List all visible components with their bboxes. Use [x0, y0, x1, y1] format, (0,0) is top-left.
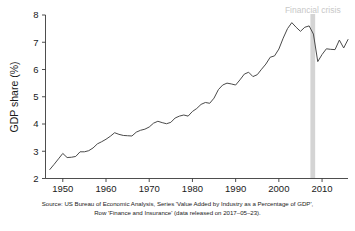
y-tick-label-3: 3: [33, 146, 38, 157]
x-tick-marks: [63, 179, 322, 183]
annotation-labels: Financial crisis: [285, 5, 341, 15]
source-line-1: Source: US Bureau of Economic Analysis, …: [0, 200, 355, 209]
chart-figure: Financial crisis 2345678 195019601970198…: [0, 0, 355, 231]
y-tick-label-5: 5: [33, 91, 38, 102]
x-tick-label-1980: 1980: [182, 183, 203, 194]
x-tick-label-2000: 2000: [268, 183, 289, 194]
y-tick-label-8: 8: [33, 9, 38, 20]
y-tick-label-6: 6: [33, 64, 38, 75]
chart-source-caption: Source: US Bureau of Economic Analysis, …: [0, 200, 355, 217]
y-tick-label-2: 2: [33, 173, 38, 184]
y-tick-label-7: 7: [33, 37, 38, 48]
y-axis-label: GDP share (%): [8, 62, 20, 133]
x-tick-label-1970: 1970: [139, 183, 160, 194]
y-tick-marks: [42, 15, 46, 179]
financial-crisis-label: Financial crisis: [285, 5, 341, 15]
y-tick-labels: 2345678: [33, 9, 38, 184]
x-tick-labels: 1950196019701980199020002010: [52, 183, 332, 194]
x-tick-label-1950: 1950: [52, 183, 73, 194]
source-line-2: Row 'Finance and Insurance' (data releas…: [0, 209, 355, 218]
x-tick-label-1960: 1960: [95, 183, 116, 194]
x-tick-label-1990: 1990: [225, 183, 246, 194]
y-tick-label-4: 4: [33, 118, 38, 129]
gdp-share-series-line: [50, 23, 348, 170]
axes-group: [42, 15, 348, 182]
x-tick-label-2010: 2010: [312, 183, 333, 194]
gdp-share-line-chart: Financial crisis 2345678 195019601970198…: [0, 0, 355, 231]
